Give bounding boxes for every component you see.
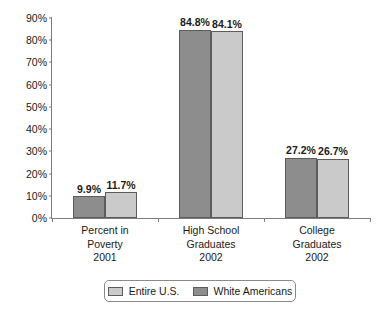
bar-0[interactable]: 27.2% — [285, 158, 317, 218]
x-axis-category-label-line: High School — [158, 224, 264, 238]
x-axis-tick-mark — [52, 218, 53, 222]
bar-group-bars: 27.2%26.7% — [264, 18, 370, 218]
bar-group: 27.2%26.7% — [264, 18, 370, 218]
y-axis-tick-label: 10% — [26, 191, 47, 202]
bar-1[interactable]: 26.7% — [317, 159, 349, 218]
y-axis-tick-label: 30% — [26, 146, 47, 157]
y-axis-tick-label: 90% — [26, 13, 47, 24]
x-axis-category-label-line: Poverty — [52, 238, 158, 252]
y-axis-tick-label: 80% — [26, 35, 47, 46]
bar-group: 84.8%84.1% — [158, 18, 264, 218]
bar-group: 9.9%11.7% — [52, 18, 158, 218]
y-axis-tick-label: 60% — [26, 79, 47, 90]
x-axis-category-label: CollegeGraduates2002 — [264, 224, 370, 265]
y-axis-tick-label: 50% — [26, 102, 47, 113]
plot-area: 0%10%20%30%40%50%60%70%80%90%9.9%11.7%84… — [52, 18, 370, 218]
bar-value-label: 84.1% — [212, 19, 242, 30]
legend-item[interactable]: Entire U.S. — [108, 286, 180, 297]
legend-swatch-icon — [108, 287, 123, 296]
x-axis-tick-mark — [264, 218, 265, 222]
bar-group-bars: 84.8%84.1% — [158, 18, 264, 218]
legend-swatch-icon — [193, 287, 208, 296]
bar-value-label: 11.7% — [106, 180, 135, 191]
x-axis-category-label-line: 2001 — [52, 251, 158, 265]
x-axis-category-label-line: Percent in — [52, 224, 158, 238]
legend-label: White Americans — [214, 286, 293, 297]
x-axis-category-label-line: Graduates — [158, 238, 264, 252]
bar-1[interactable]: 84.1% — [211, 31, 243, 218]
y-axis-tick-label: 0% — [32, 213, 47, 224]
chart-legend: Entire U.S.White Americans — [104, 280, 296, 302]
x-axis-category-label-line: College — [264, 224, 370, 238]
bar-value-label: 9.9% — [77, 184, 101, 195]
y-axis-tick-label: 40% — [26, 124, 47, 135]
x-axis-category-label-line: Graduates — [264, 238, 370, 252]
bar-group-bars: 9.9%11.7% — [52, 18, 158, 218]
y-axis-tick-label: 70% — [26, 57, 47, 68]
x-axis-line — [51, 218, 370, 219]
x-axis-tick-mark — [158, 218, 159, 222]
x-axis-category-label: Percent inPoverty2001 — [52, 224, 158, 265]
x-axis-category-label: High SchoolGraduates2002 — [158, 224, 264, 265]
x-axis-category-label-line: 2002 — [158, 251, 264, 265]
bar-1[interactable]: 11.7% — [105, 192, 137, 218]
legend-item[interactable]: White Americans — [193, 286, 293, 297]
y-axis-tick-label: 20% — [26, 168, 47, 179]
bar-0[interactable]: 84.8% — [179, 30, 211, 218]
bar-value-label: 26.7% — [318, 146, 348, 157]
x-axis-tick-mark — [370, 218, 371, 222]
bar-chart: 0%10%20%30%40%50%60%70%80%90%9.9%11.7%84… — [0, 0, 392, 315]
bar-value-label: 27.2% — [286, 145, 316, 156]
bar-0[interactable]: 9.9% — [73, 196, 105, 218]
bar-value-label: 84.8% — [180, 17, 210, 28]
legend-label: Entire U.S. — [129, 286, 180, 297]
x-axis-category-label-line: 2002 — [264, 251, 370, 265]
